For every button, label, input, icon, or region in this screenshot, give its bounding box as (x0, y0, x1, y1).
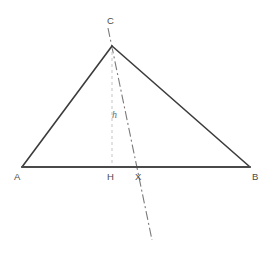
vertex-label-b: B (252, 172, 259, 182)
cevian-line (108, 28, 152, 240)
triangle-side-ac (22, 46, 112, 167)
altitude-measure-label: h (112, 110, 117, 120)
vertex-label-x: X (135, 172, 142, 182)
geometry-canvas (0, 0, 272, 258)
geometry-figure: C A B H X h (0, 0, 272, 258)
vertex-label-a: A (14, 172, 21, 182)
vertex-label-h: H (107, 172, 114, 182)
vertex-label-c: C (107, 16, 114, 26)
